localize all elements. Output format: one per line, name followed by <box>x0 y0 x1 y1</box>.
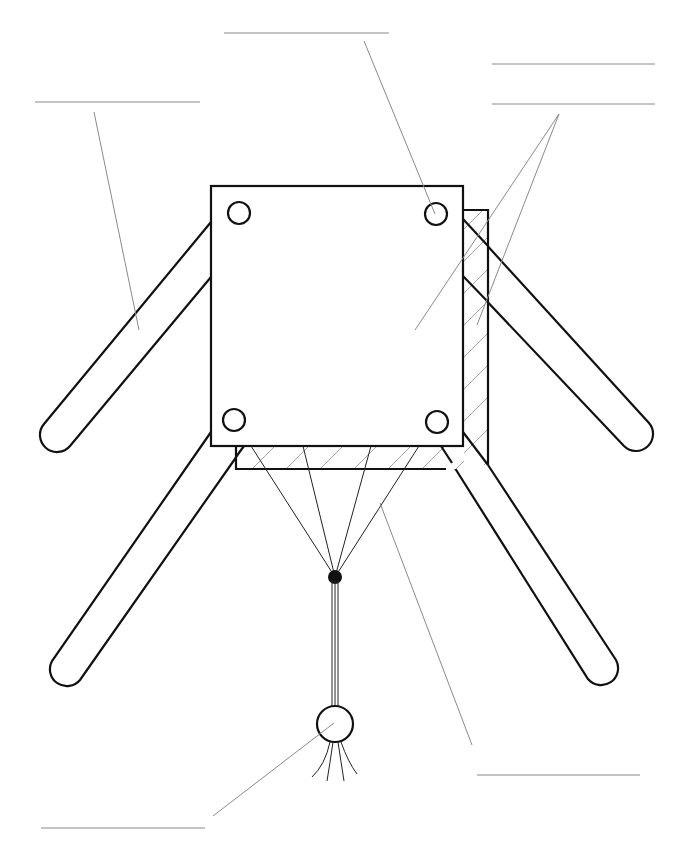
hole-top-right <box>425 203 447 225</box>
cord <box>332 580 338 706</box>
back-plate-right <box>463 205 488 486</box>
hole-top-left <box>228 202 250 224</box>
main-plate <box>211 186 463 446</box>
label-bottom-left <box>41 723 334 828</box>
hole-bottom-left <box>223 409 245 431</box>
arm-upper-right <box>463 219 653 451</box>
arm-upper-left <box>40 222 211 452</box>
label-top-right-2 <box>415 104 655 330</box>
arm-lower-left <box>50 432 244 686</box>
bulb <box>312 706 357 781</box>
hole-bottom-right <box>426 411 448 433</box>
label-top-left <box>35 102 200 330</box>
arm-lower-right <box>441 446 618 685</box>
diagram-canvas <box>0 0 689 860</box>
